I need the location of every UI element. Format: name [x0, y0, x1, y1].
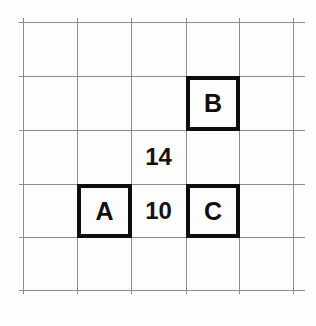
gridline-vertical-6 [293, 18, 294, 294]
gridline-vertical-1 [23, 18, 24, 294]
grid-cell-label-a: A [95, 199, 113, 224]
gridline-horizontal-6 [19, 290, 305, 291]
grid-cell-label-b: B [204, 91, 222, 116]
grid-cell-label-c: C [204, 199, 222, 224]
grid-cell-value-14-text: 14 [145, 145, 172, 169]
grid-cell-box-c[interactable]: C [186, 184, 240, 238]
gridline-horizontal-2 [19, 76, 305, 77]
gridline-vertical-2 [77, 18, 78, 294]
gridline-horizontal-1 [19, 22, 305, 23]
grid-cell-value-10: 10 [131, 184, 186, 238]
grid-cell-value-14: 14 [131, 130, 186, 184]
grid-cell-box-b[interactable]: B [186, 76, 240, 131]
grid-diagram-canvas: B 14 A 10 C [0, 0, 316, 326]
grid-cell-box-a[interactable]: A [77, 184, 132, 238]
gridline-vertical-5 [239, 18, 240, 294]
gridline-vertical-4 [186, 18, 187, 294]
grid-cell-value-10-text: 10 [145, 199, 172, 223]
